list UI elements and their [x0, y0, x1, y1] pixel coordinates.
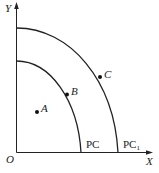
- curve-pc1: [17, 28, 119, 153]
- point-a-label: A: [40, 102, 48, 114]
- point-b-label: B: [71, 85, 78, 97]
- y-axis-label: Y: [5, 2, 13, 14]
- origin-label: O: [6, 153, 14, 165]
- y-axis-arrow-icon: [14, 2, 19, 9]
- curve-pc: [17, 61, 82, 153]
- point-a: [35, 110, 39, 114]
- curve-pc1-label-main: PC: [123, 138, 136, 150]
- curve-pc1-label-subscript: 1: [136, 144, 140, 152]
- point-b: [65, 93, 69, 97]
- curve-pc-label: PC: [86, 138, 99, 150]
- x-axis-label: X: [145, 155, 154, 167]
- curve-pc1-label: PC1: [123, 138, 140, 152]
- ppf-diagram: Y X O A B C PC PC1: [0, 0, 159, 173]
- point-c: [98, 75, 102, 79]
- point-c-label: C: [104, 68, 112, 80]
